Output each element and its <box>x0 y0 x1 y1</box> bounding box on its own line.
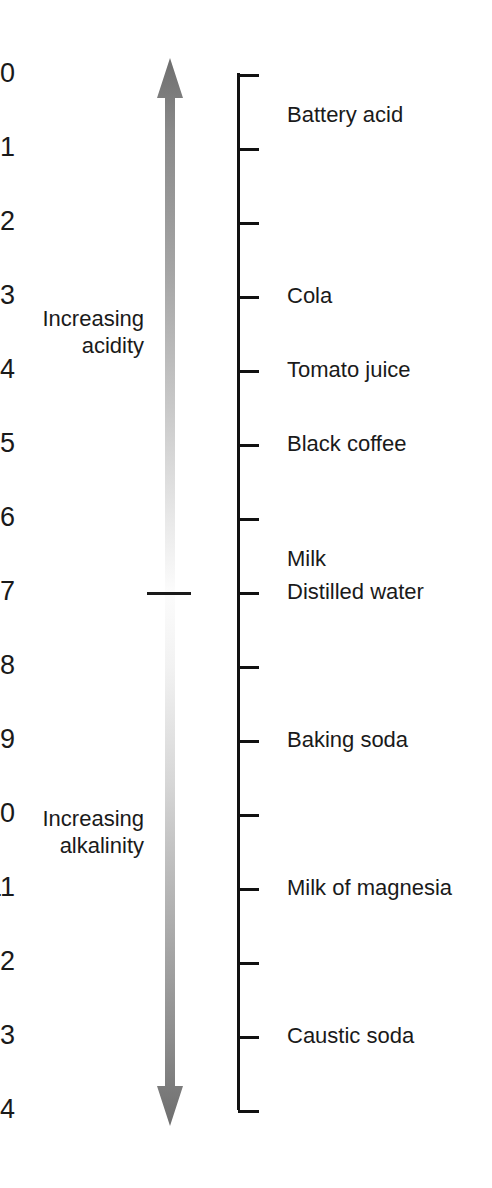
substance-label: Distilled water <box>287 581 424 603</box>
tick-label: 0 <box>0 60 24 87</box>
tick-label: 12 <box>0 948 24 975</box>
tick-mark-icon <box>238 518 259 521</box>
tick-mark-icon <box>238 370 259 373</box>
tick-label: 4 <box>0 356 24 383</box>
tick-label: 9 <box>0 726 24 753</box>
tick-label: 1 <box>0 134 24 161</box>
tick-mark-icon <box>238 592 259 595</box>
tick-label: 11 <box>0 874 24 901</box>
substance-label: Black coffee <box>287 433 406 455</box>
tick-label: 7 <box>0 578 24 605</box>
substance-label: Cola <box>287 285 332 307</box>
tick-mark-icon <box>238 74 259 77</box>
tick-mark-icon <box>238 962 259 965</box>
tick-mark-icon <box>238 222 259 225</box>
tick-label: 6 <box>0 504 24 531</box>
neutral-ph7-marker <box>147 592 191 595</box>
tick-mark-icon <box>238 740 259 743</box>
tick-label: 5 <box>0 430 24 457</box>
substance-label: Milk <box>287 548 326 570</box>
tick-mark-icon <box>238 1110 259 1113</box>
tick-mark-icon <box>238 148 259 151</box>
substance-label: Milk of magnesia <box>287 877 452 899</box>
tick-label: 2 <box>0 208 24 235</box>
ph-scale-diagram: 01234567891011121314 Battery acidColaTom… <box>0 0 492 1188</box>
increasing-alkalinity-label: Increasingalkalinity <box>16 805 144 859</box>
tick-mark-icon <box>238 814 259 817</box>
tick-label: 13 <box>0 1022 24 1049</box>
tick-mark-icon <box>238 888 259 891</box>
substance-label: Caustic soda <box>287 1025 414 1047</box>
tick-mark-icon <box>238 1036 259 1039</box>
increasing-acidity-label: Increasingacidity <box>16 305 144 359</box>
substance-label: Tomato juice <box>287 359 411 381</box>
substance-label: Baking soda <box>287 729 408 751</box>
tick-label: 14 <box>0 1096 24 1123</box>
substance-label: Battery acid <box>287 104 403 126</box>
tick-label: 8 <box>0 652 24 679</box>
tick-mark-icon <box>238 444 259 447</box>
tick-mark-icon <box>238 666 259 669</box>
tick-mark-icon <box>238 296 259 299</box>
